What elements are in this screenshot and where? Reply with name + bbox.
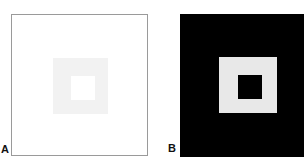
panel-a-surround-square <box>53 58 108 114</box>
panel-a-target-square <box>71 76 95 100</box>
panel-b-frame <box>180 14 304 157</box>
panel-a-frame <box>11 14 148 156</box>
panel-b-label: B <box>168 142 176 154</box>
panel-a-label: A <box>1 143 9 155</box>
figure-root: A B <box>0 0 304 168</box>
panel-b-target-square <box>238 75 262 99</box>
panel-b-surround-square <box>219 57 277 113</box>
